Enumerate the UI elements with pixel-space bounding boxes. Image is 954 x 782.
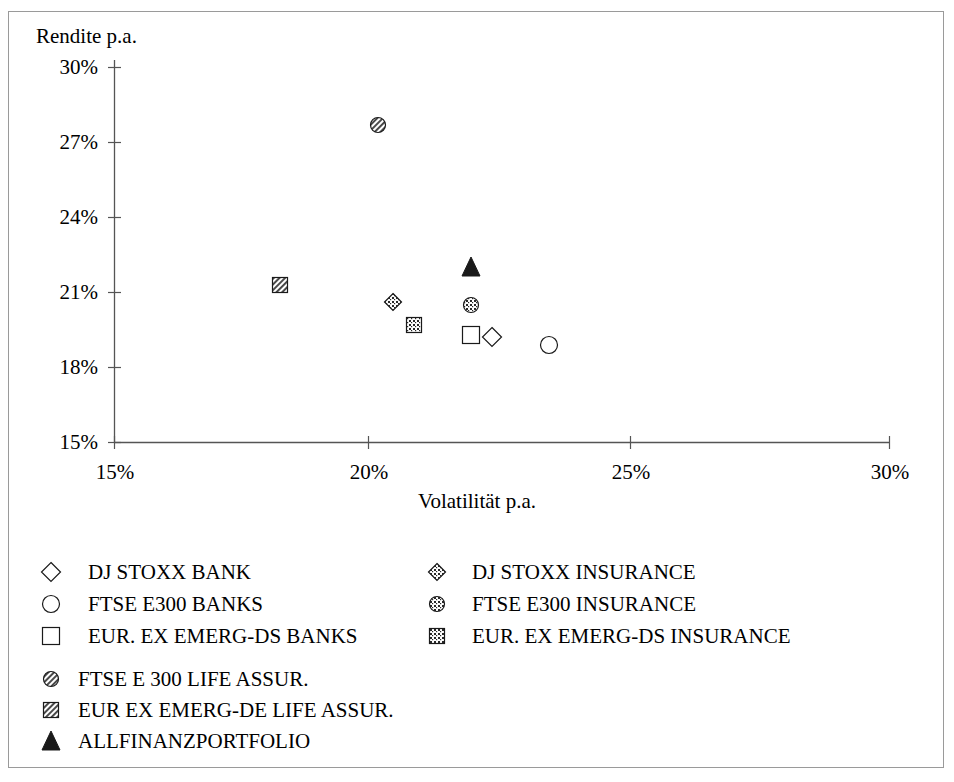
filled-triangle-icon [36, 726, 66, 756]
y-tick-label: 27% [28, 132, 98, 153]
data-point-filled-triangle [471, 267, 472, 268]
legend-label: EUR. EX EMERG-DS INSURANCE [472, 626, 791, 647]
legend-item: FTSE E300 INSURANCE [422, 589, 696, 619]
legend-item: FTSE E 300 LIFE ASSUR. [36, 664, 308, 694]
open-square-icon [36, 621, 66, 651]
y-tick-label: 24% [28, 207, 98, 228]
hatched-square-icon [36, 695, 66, 725]
legend-item: EUR. EX EMERG-DS BANKS [36, 621, 358, 651]
x-tick-label: 25% [591, 462, 671, 483]
legend-item: EUR. EX EMERG-DS INSURANCE [422, 621, 791, 651]
y-tick-label: 21% [28, 282, 98, 303]
data-point-hatched-square [280, 285, 281, 286]
open-circle-icon [36, 589, 66, 619]
legend-item: FTSE E300 BANKS [36, 589, 263, 619]
y-tick-label: 30% [28, 57, 98, 78]
data-point-speckled-circle [471, 305, 472, 306]
legend-item: ALLFINANZPORTFOLIO [36, 726, 310, 756]
legend-label: FTSE E300 BANKS [88, 594, 263, 615]
speckled-circle-icon [422, 589, 452, 619]
legend-item: EUR EX EMERG-DE LIFE ASSUR. [36, 695, 394, 725]
data-point-speckled-diamond [393, 302, 394, 303]
legend-label: EUR. EX EMERG-DS BANKS [88, 626, 358, 647]
open-diamond-icon [36, 557, 66, 587]
legend-item: DJ STOXX INSURANCE [422, 557, 696, 587]
x-tick-label: 30% [850, 462, 930, 483]
legend-label: ALLFINANZPORTFOLIO [78, 731, 310, 752]
chart-legend: DJ STOXX BANK FTSE E300 BANKS EUR. EX EM… [0, 543, 954, 773]
scatter-plot-area: Rendite p.a. 30% 27% 24% 21% 18% 15% [0, 0, 954, 540]
speckled-diamond-icon [422, 557, 452, 587]
x-tick-label: 15% [75, 462, 155, 483]
legend-label: FTSE E300 INSURANCE [472, 594, 696, 615]
y-tick-label: 18% [28, 357, 98, 378]
chart-page: Rendite p.a. 30% 27% 24% 21% 18% 15% [0, 0, 954, 782]
legend-item: DJ STOXX BANK [36, 557, 251, 587]
legend-label: EUR EX EMERG-DE LIFE ASSUR. [78, 700, 394, 721]
data-point-open-circle [549, 345, 550, 346]
hatched-circle-icon [36, 664, 66, 694]
x-axis-title: Volatilität p.a. [0, 489, 954, 514]
y-tick-label: 15% [28, 432, 98, 453]
x-tick-label: 20% [329, 462, 409, 483]
data-point-open-diamond [492, 337, 493, 338]
data-point-speckled-square [414, 325, 415, 326]
legend-label: DJ STOXX BANK [88, 562, 251, 583]
data-point-hatched-circle [378, 125, 379, 126]
data-point-open-square [471, 335, 472, 336]
speckled-square-icon [422, 621, 452, 651]
legend-label: DJ STOXX INSURANCE [472, 562, 696, 583]
legend-label: FTSE E 300 LIFE ASSUR. [78, 669, 308, 690]
